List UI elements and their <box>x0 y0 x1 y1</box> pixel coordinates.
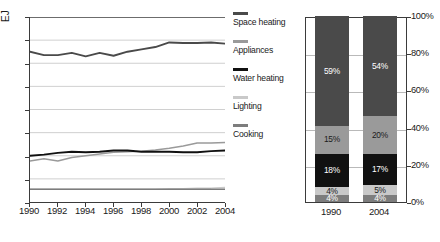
chart-legend: Space heatingAppliancesWater heatingLigh… <box>233 12 301 152</box>
stacked-bar-2004: 4%5%17%20%54% <box>363 18 397 202</box>
bar-segment-cooking: 4% <box>315 195 349 202</box>
bar-segment-value-label: 4% <box>374 195 386 202</box>
line-chart-series-svg <box>30 17 225 202</box>
legend-swatch-icon <box>233 40 248 43</box>
bar-x-axis-tick-label: 1990 <box>309 207 353 217</box>
bar-segment-lighting: 4% <box>315 187 349 194</box>
bar-y-axis-tick-label: 40% <box>411 124 440 133</box>
bar-segment-value-label: 18% <box>324 166 340 174</box>
x-axis-tick-label: 2004 <box>208 206 242 216</box>
bar-segment-value-label: 17% <box>372 165 388 173</box>
bar-y-axis-tick-label: 100% <box>411 12 440 21</box>
line-series-water-heating <box>30 151 225 156</box>
bar-x-axis-tick-label: 2004 <box>357 207 401 217</box>
bar-y-axis-tick-label: 60% <box>411 86 440 95</box>
bar-segment-value-label: 59% <box>324 67 340 75</box>
x-axis-tick-mark <box>225 203 226 207</box>
bar-segment-value-label: 54% <box>372 62 388 70</box>
bar-segment-space-heating: 59% <box>315 16 349 126</box>
legend-swatch-icon <box>233 68 248 71</box>
legend-item-label: Water heating <box>233 74 301 83</box>
legend-item-label: Lighting <box>233 102 301 111</box>
energy-consumption-figure: EJ 1614121086420199019921994199619982000… <box>0 0 440 242</box>
legend-item-label: Cooking <box>233 130 301 139</box>
legend-item-space-heating: Space heating <box>233 12 301 27</box>
legend-item-cooking: Cooking <box>233 124 301 139</box>
bar-segment-value-label: 4% <box>326 187 338 194</box>
legend-item-appliances: Appliances <box>233 40 301 55</box>
stacked-bar-chart-panel: 4%4%18%15%59%4%5%17%20%54% 100%80%60%40%… <box>305 0 440 242</box>
y-axis-unit-label: EJ <box>1 10 11 22</box>
bar-segment-value-label: 5% <box>374 186 386 194</box>
line-chart-gridlines <box>30 17 225 179</box>
x-axis-tick-mark <box>169 203 170 207</box>
stacked-bar-1990: 4%4%18%15%59% <box>315 18 349 202</box>
bar-segment-value-label: 20% <box>372 131 388 139</box>
bar-y-axis-tick-mark <box>407 54 411 55</box>
x-axis-tick-mark <box>113 203 114 207</box>
bar-segment-water-heating: 17% <box>363 154 397 186</box>
line-chart-series-group <box>30 42 225 189</box>
x-axis-tick-mark <box>197 203 198 207</box>
bar-segment-appliances: 20% <box>363 116 397 153</box>
bar-y-axis-tick-label: 80% <box>411 49 440 58</box>
x-axis-tick-mark <box>29 203 30 207</box>
bar-segment-cooking: 4% <box>363 195 397 202</box>
legend-item-water-heating: Water heating <box>233 68 301 83</box>
legend-item-lighting: Lighting <box>233 96 301 111</box>
legend-item-label: Space heating <box>233 18 301 27</box>
x-axis-tick-mark <box>85 203 86 207</box>
bar-segment-space-heating: 54% <box>363 16 397 116</box>
bar-y-axis-tick-label: 0% <box>411 198 440 207</box>
bar-segment-water-heating: 18% <box>315 154 349 187</box>
bar-segment-value-label: 15% <box>324 135 340 143</box>
bar-y-axis-tick-mark <box>407 17 411 18</box>
line-chart-panel: EJ 1614121086420199019921994199619982000… <box>0 0 232 242</box>
line-chart-plot-area <box>29 17 225 203</box>
bar-y-axis-tick-mark <box>407 166 411 167</box>
x-axis-tick-mark <box>57 203 58 207</box>
bar-segment-value-label: 4% <box>326 195 338 202</box>
bar-y-axis-tick-mark <box>407 129 411 130</box>
bar-segment-lighting: 5% <box>363 185 397 194</box>
legend-item-label: Appliances <box>233 46 301 55</box>
stacked-bar-plot-area: 4%4%18%15%59%4%5%17%20%54% <box>305 17 407 203</box>
bar-segment-appliances: 15% <box>315 126 349 154</box>
x-axis-tick-mark <box>141 203 142 207</box>
legend-swatch-icon <box>233 12 248 15</box>
line-series-space-heating <box>30 42 225 56</box>
legend-swatch-icon <box>233 96 248 99</box>
bar-y-axis-tick-label: 20% <box>411 161 440 170</box>
bar-y-axis-tick-mark <box>407 203 411 204</box>
bar-y-axis-tick-mark <box>407 91 411 92</box>
legend-swatch-icon <box>233 124 248 127</box>
